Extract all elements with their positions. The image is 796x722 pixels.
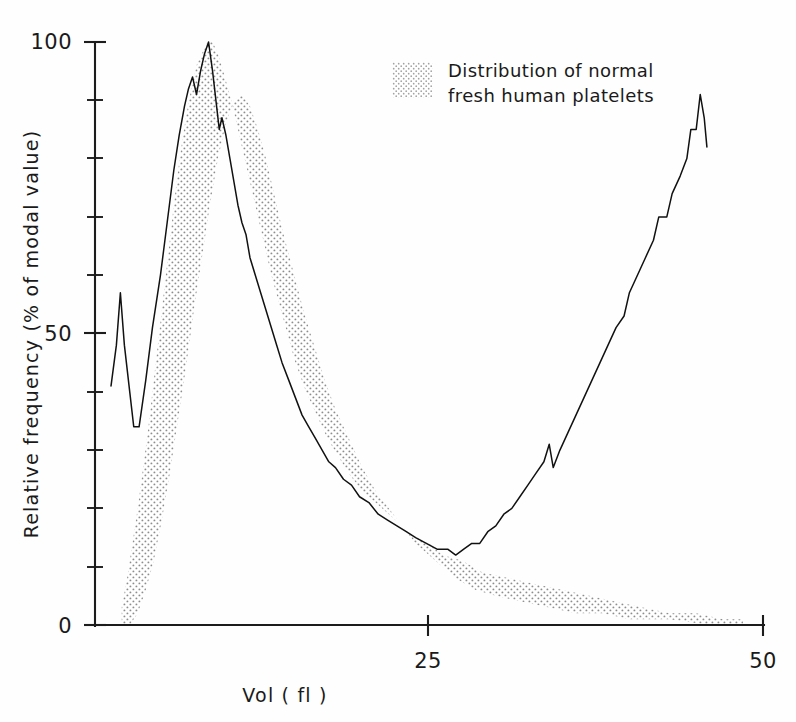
x-axis-label-25: 25 [414,649,442,673]
distribution-band-area [122,42,743,625]
x-axis-title: Vol ( fl ) [242,684,327,706]
y-axis-label-0: 0 [58,614,72,638]
chart-figure: 100 50 0 25 50 Relative frequency (% of … [0,0,796,722]
chart-legend: Distribution of normal fresh human plate… [392,60,654,106]
y-axis-label-100: 100 [30,30,72,54]
platelet-volume-distribution-chart: 100 50 0 25 50 Relative frequency (% of … [0,0,796,722]
legend-swatch-stipple-icon [392,62,433,98]
y-axis-title: Relative frequency (% of modal value) [20,130,42,539]
y-axis-label-50: 50 [44,322,72,346]
legend-label-line2: fresh human platelets [448,85,654,106]
x-axis-label-50: 50 [749,649,777,673]
legend-label-line1: Distribution of normal [448,60,654,81]
